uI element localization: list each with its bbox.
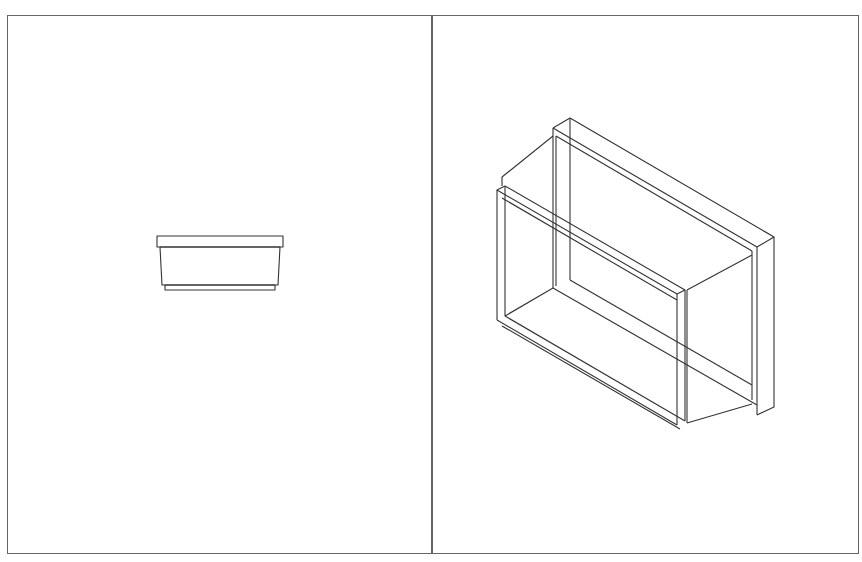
drawing-canvas: [0, 0, 862, 562]
isometric-view-drawing: [497, 118, 774, 429]
front-view-drawing: [157, 236, 283, 290]
